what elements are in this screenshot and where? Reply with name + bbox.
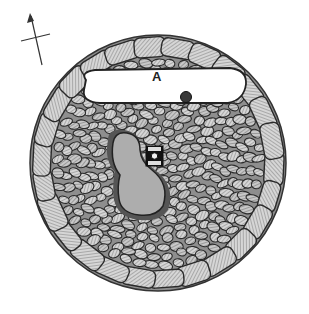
chamber-a: [84, 68, 246, 103]
north-arrow-icon: [21, 13, 50, 65]
stone-circle-plan: [0, 0, 309, 314]
post-hole: [181, 92, 192, 103]
square-setting: [146, 146, 163, 166]
chamber-label-a: A: [152, 69, 161, 84]
